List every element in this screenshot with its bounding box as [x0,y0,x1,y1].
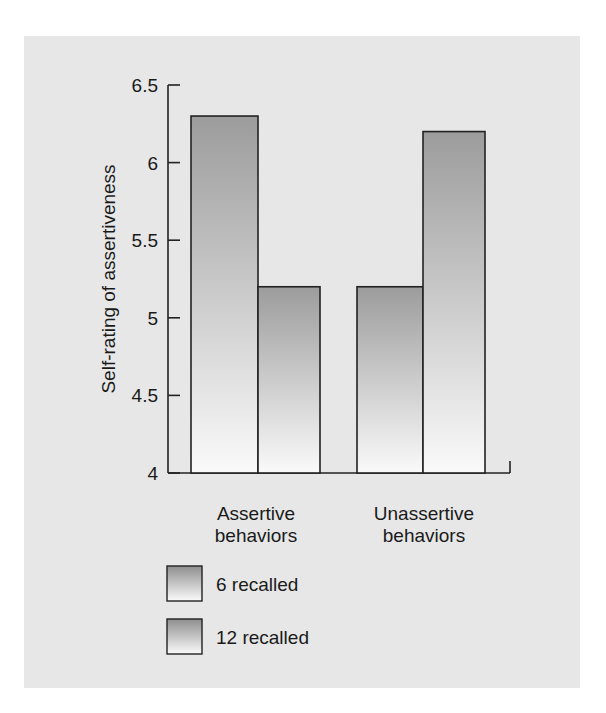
bar-assertive-12-recalled [258,287,320,473]
legend-label: 12 recalled [216,627,309,648]
y-tick-label: 5.5 [132,230,158,251]
x-category-label: Assertive [217,503,295,524]
y-tick-label: 6.5 [132,75,158,96]
legend-label: 6 recalled [216,574,298,595]
bars [191,116,485,473]
bar-assertive-6-recalled [191,116,258,473]
y-tick-label: 4 [147,463,158,484]
y-tick-label: 5 [147,308,158,329]
x-axis-labels: AssertivebehaviorsUnassertivebehaviors [215,503,474,546]
y-axis-label: Self-rating of assertiveness [98,164,119,393]
y-tick-label: 6 [147,153,158,174]
y-tick-label: 4.5 [132,385,158,406]
bar-unassertive-6-recalled [357,287,423,473]
x-category-label: behaviors [383,525,465,546]
legend: 6 recalled12 recalled [167,566,309,654]
legend-swatch [167,619,202,654]
x-category-label: behaviors [215,525,297,546]
bar-unassertive-12-recalled [423,132,485,473]
legend-swatch [167,566,202,601]
x-category-label: Unassertive [374,503,474,524]
bar-chart: Self-rating of assertiveness 44.555.566.… [0,0,606,713]
